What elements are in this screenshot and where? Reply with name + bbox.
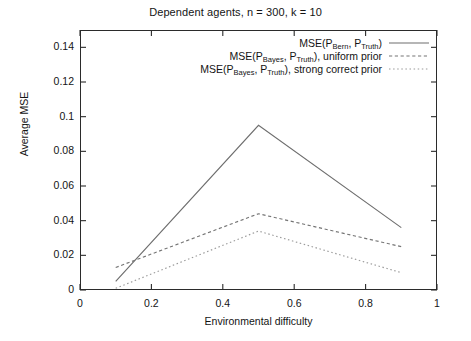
legend-item: MSE(PBern, PTruth)	[120, 36, 430, 49]
y-axis-tick-label: 0.14	[18, 40, 74, 52]
x-axis-tick-label: 1	[417, 297, 457, 309]
series-line	[116, 125, 402, 281]
series-line	[116, 231, 402, 288]
legend-item-label: MSE(PBayes, PTruth), uniform prior	[230, 50, 382, 62]
legend-key-swatch	[388, 38, 430, 47]
y-axis-tick-label: 0.04	[18, 214, 74, 226]
legend-item-label: MSE(PBern, PTruth)	[299, 37, 382, 49]
chart-root: Dependent agents, n = 300, k = 10 00.020…	[0, 0, 471, 341]
chart-legend: MSE(PBern, PTruth)MSE(PBayes, PTruth), u…	[120, 36, 430, 75]
y-axis-tick-label: 0	[18, 283, 74, 295]
x-axis-tick-label: 0.6	[274, 297, 314, 309]
y-axis-tick-label: 0.02	[18, 248, 74, 260]
legend-key-swatch	[388, 51, 430, 60]
x-axis-tick-label: 0.8	[346, 297, 386, 309]
series-line	[116, 214, 402, 268]
x-axis-label: Environmental difficulty	[80, 315, 437, 327]
legend-item: MSE(PBayes, PTruth), uniform prior	[120, 49, 430, 62]
x-axis-tick-label: 0	[60, 297, 100, 309]
legend-item-label: MSE(PBayes, PTruth), strong correct prio…	[200, 63, 382, 75]
x-axis-tick-label: 0.2	[131, 297, 171, 309]
legend-key-swatch	[388, 64, 430, 73]
x-axis-tick-label: 0.4	[203, 297, 243, 309]
y-axis-label: Average MSE	[18, 54, 30, 194]
data-series-group	[116, 125, 402, 288]
